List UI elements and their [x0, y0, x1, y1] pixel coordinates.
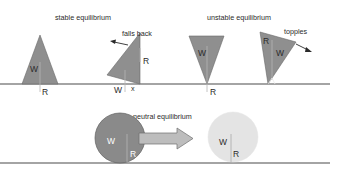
stable-equilibrium-caption: stable equilibrium [55, 13, 111, 22]
falls-back-annotation: falls back [122, 29, 152, 38]
falls-back-arrow-icon [110, 40, 128, 46]
topples-arrow-icon [296, 44, 312, 52]
right-arrow-icon [139, 128, 193, 149]
reaction-label: R [130, 149, 136, 159]
equilibrium-diagram: stable equilibrium unstable equilibrium … [0, 0, 345, 173]
reaction-label: R [263, 36, 269, 46]
neutral-equilibrium-caption: neutral equilibrium [133, 112, 192, 121]
reaction-label: R [42, 87, 48, 97]
dark-ball: W R [95, 113, 145, 163]
weight-label: W [219, 137, 227, 147]
falls-back-triangle: falls back R W x [107, 29, 152, 95]
weight-label: W [30, 64, 38, 74]
reaction-label: R [143, 56, 149, 66]
unstable-inverted-triangle: W R [189, 36, 224, 97]
stable-triangle: W R [22, 35, 58, 97]
weight-label: W [114, 85, 122, 95]
weight-label: W [198, 48, 206, 58]
weight-label: W [107, 136, 115, 146]
weight-label: W [276, 48, 284, 58]
topples-annotation: topples [284, 27, 308, 36]
pivot-label: x [131, 84, 135, 93]
unstable-equilibrium-caption: unstable equilibrium [207, 13, 271, 22]
reaction-label: R [233, 149, 239, 159]
light-ball: W R [208, 112, 258, 162]
topples-triangle: R W topples [260, 27, 312, 84]
reaction-label: R [210, 87, 216, 97]
